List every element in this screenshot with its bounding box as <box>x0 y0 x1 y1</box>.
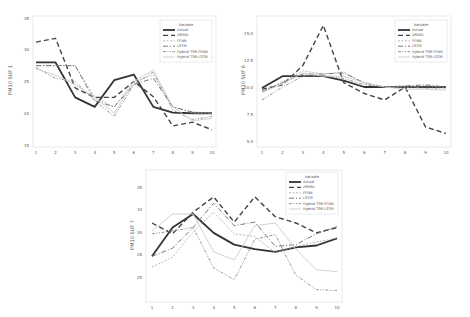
x-tick-label: 8 <box>404 150 407 155</box>
legend-title: Variable <box>414 23 429 27</box>
x-tick-label: 6 <box>133 150 136 155</box>
x-tick-label: 4 <box>322 150 325 155</box>
y-axis-label: PM10 SUF 1 <box>7 65 13 95</box>
y-tick-label: 7.5 <box>247 112 254 117</box>
x-tick-label: 1 <box>35 150 38 155</box>
legend-label: Hybrid TSR-FFNN <box>303 202 334 206</box>
legend-label: Actual <box>412 28 423 32</box>
legend-title: Variable <box>179 23 194 27</box>
y-tick-label: 28 <box>137 252 143 257</box>
legend-label: FFNN <box>303 191 313 195</box>
legend-label: ARIMA <box>412 33 424 37</box>
y-tick-label: 5.0 <box>247 139 254 144</box>
x-tick-label: 8 <box>172 150 175 155</box>
y-tick-label: 30 <box>24 47 30 52</box>
x-tick-label: 1 <box>151 305 154 310</box>
x-tick-label: 3 <box>74 150 77 155</box>
y-tick-label: 35 <box>24 16 30 21</box>
y-axis-label: PM10 SUF 6 <box>240 65 246 95</box>
legend-label: FFNN <box>412 39 422 43</box>
y-tick-label: 25 <box>137 275 143 280</box>
line-chart-svg: 353025201512345678910PM10 SUF 1VariableA… <box>0 0 235 160</box>
legend-label: ARIMA <box>303 185 315 189</box>
legend-label: ARIMA <box>177 33 189 37</box>
legend-label: FFNN <box>177 39 187 43</box>
x-tick-label: 9 <box>424 150 427 155</box>
x-tick-label: 2 <box>281 150 284 155</box>
legend-label: Hybrid TSR-FFNN <box>177 50 208 54</box>
y-tick-label: 15 <box>24 143 30 148</box>
x-tick-label: 1 <box>261 150 264 155</box>
x-tick-label: 4 <box>212 305 215 310</box>
line-chart-svg: 15.012.510.07.55.012345678910PM10 SUF 6V… <box>235 0 470 160</box>
y-tick-label: 33 <box>137 207 143 212</box>
x-tick-label: 8 <box>295 305 298 310</box>
x-tick-label: 10 <box>334 305 340 310</box>
x-tick-label: 7 <box>383 150 386 155</box>
x-tick-label: 9 <box>191 150 194 155</box>
y-tick-label: 25 <box>24 79 30 84</box>
x-tick-label: 5 <box>233 305 236 310</box>
x-tick-label: 7 <box>274 305 277 310</box>
y-tick-label: 15.0 <box>244 31 253 36</box>
x-tick-label: 10 <box>209 150 215 155</box>
legend-label: LSTM <box>303 196 313 200</box>
chart-pm10-suf6: 15.012.510.07.55.012345678910PM10 SUF 6V… <box>235 0 470 160</box>
chart-pm10-suf1: 353025201512345678910PM10 SUF 1VariableA… <box>0 0 235 160</box>
x-tick-label: 6 <box>254 305 257 310</box>
legend-label: Actual <box>303 180 314 184</box>
legend-label: LSTM <box>412 44 422 48</box>
x-tick-label: 6 <box>363 150 366 155</box>
legend-label: Hybrid TSR-LSTM <box>412 55 443 59</box>
y-tick-label: 20 <box>24 111 30 116</box>
x-tick-label: 5 <box>343 150 346 155</box>
legend-label: Hybrid TSR-LSTM <box>303 207 334 211</box>
x-tick-label: 7 <box>152 150 155 155</box>
y-tick-label: 30 <box>137 230 143 235</box>
legend-label: LSTM <box>177 44 187 48</box>
x-tick-label: 10 <box>443 150 449 155</box>
x-tick-label: 2 <box>171 305 174 310</box>
chart-pm10-suf7: 353330282512345678910PM10 SUF 7VariableA… <box>120 160 360 317</box>
legend-title: Variable <box>305 175 320 179</box>
legend-label: Actual <box>177 28 188 32</box>
line-chart-svg: 353330282512345678910PM10 SUF 7VariableA… <box>120 160 360 317</box>
x-tick-label: 5 <box>113 150 116 155</box>
legend-label: Hybrid TSR-LSTM <box>177 55 208 59</box>
x-tick-label: 2 <box>54 150 57 155</box>
y-tick-label: 12.5 <box>244 58 253 63</box>
x-tick-label: 3 <box>192 305 195 310</box>
x-tick-label: 3 <box>302 150 305 155</box>
y-axis-label: PM10 SUF 7 <box>129 220 135 250</box>
legend-label: Hybrid TSR-FFNN <box>412 50 443 54</box>
x-tick-label: 4 <box>93 150 96 155</box>
x-tick-label: 9 <box>315 305 318 310</box>
y-tick-label: 35 <box>137 185 143 190</box>
